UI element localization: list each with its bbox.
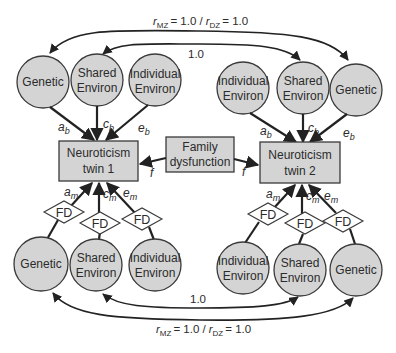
svg-text:Individual: Individual: [218, 74, 269, 88]
svg-text:FD: FD: [134, 213, 151, 227]
svg-text:Genetic: Genetic: [22, 75, 63, 89]
svg-text:Neuroticism: Neuroticism: [268, 148, 331, 162]
svg-text:FD: FD: [335, 215, 352, 229]
svg-text:Genetic: Genetic: [335, 263, 376, 277]
svg-text:Environ: Environ: [77, 81, 118, 95]
top-correlation-arcs: rMZ= 1.0 /rDZ= 1.0 1.0: [50, 15, 348, 60]
twin1-genetic-top: Genetic: [17, 56, 69, 108]
svg-text:twin 1: twin 1: [83, 162, 115, 176]
twin1-top-paths: ab cb eb: [50, 105, 150, 140]
twin2-top-factors: Individual Environ Shared Environ Geneti…: [217, 62, 382, 116]
twin1-moderated-paths: am cm em FD FD FD: [44, 183, 162, 241]
fd-moderator-diamond: FD: [44, 201, 84, 223]
twin2-genetic-top: Genetic: [330, 64, 382, 116]
twin1-genetic-bottom: Genetic: [14, 237, 68, 291]
svg-text:Environ: Environ: [223, 269, 264, 283]
svg-text:Environ: Environ: [135, 82, 176, 96]
twin2-shared-environ-top: Shared Environ: [277, 62, 329, 114]
twin1-shared-environ-top: Shared Environ: [71, 54, 123, 106]
twin2-genetic-bottom: Genetic: [330, 244, 382, 296]
svg-text:dysfunction: dysfunction: [170, 155, 231, 169]
twin1-individual-environ-top: Individual Environ: [129, 54, 181, 106]
twin2-shared-environ-bottom: Shared Environ: [274, 244, 326, 296]
svg-text:Environ: Environ: [280, 271, 321, 285]
path-label-cm-twin2: cm: [306, 189, 320, 205]
svg-text:Individual: Individual: [218, 254, 269, 268]
svg-text:Neuroticism: Neuroticism: [67, 146, 130, 160]
family-dysfunction-box: Family dysfunction: [166, 137, 234, 172]
svg-text:Genetic: Genetic: [335, 83, 376, 97]
svg-text:FD: FD: [92, 217, 109, 231]
path-label-f-left: f: [150, 166, 155, 180]
fd-moderator-diamond: FD: [122, 208, 162, 230]
twin-moderation-path-diagram: rMZ= 1.0 /rDZ= 1.0 1.0 Genetic Shared En…: [0, 0, 396, 353]
twin2-bottom-factors: Individual Environ Shared Environ Geneti…: [217, 242, 382, 296]
svg-text:Individual: Individual: [130, 67, 181, 81]
twin1-bottom-factors: Genetic Shared Environ Individual Enviro…: [14, 237, 181, 291]
svg-text:Environ: Environ: [283, 89, 324, 103]
fd-moderator-diamond: FD: [323, 210, 363, 232]
svg-text:FD: FD: [297, 217, 314, 231]
svg-text:Shared: Shared: [281, 256, 320, 270]
twin2-individual-environ-top: Individual Environ: [217, 62, 269, 114]
twin2-top-paths: ab cb eb: [250, 113, 355, 142]
bottom-outer-correlation-label: rMZ= 1.0 /rDZ= 1.0: [156, 323, 251, 338]
svg-text:Individual: Individual: [130, 251, 181, 265]
top-outer-correlation-label: rMZ= 1.0 /rDZ= 1.0: [153, 15, 248, 30]
svg-text:Shared: Shared: [78, 66, 117, 80]
svg-text:Shared: Shared: [77, 251, 116, 265]
bottom-inner-correlation-label: 1.0: [190, 293, 206, 305]
twin2-individual-environ-bottom: Individual Environ: [217, 242, 269, 294]
twin1-shared-environ-bottom: Shared Environ: [70, 239, 122, 291]
top-inner-correlation-label: 1.0: [188, 48, 204, 60]
path-label-cb-twin2: cb: [308, 121, 319, 137]
path-label-em-twin2: em: [324, 189, 339, 205]
svg-text:Genetic: Genetic: [20, 257, 61, 271]
twin1-top-factors: Genetic Shared Environ Individual Enviro…: [17, 54, 181, 108]
svg-text:Environ: Environ: [223, 89, 264, 103]
svg-text:FD: FD: [56, 206, 73, 220]
path-label-am-twin2: am: [266, 187, 281, 203]
bottom-correlation-arcs: 1.0 rMZ= 1.0 /rDZ= 1.0: [53, 293, 353, 338]
fd-moderator-diamond: FD: [80, 212, 120, 234]
svg-text:Shared: Shared: [284, 74, 323, 88]
path-label-eb-twin2: eb: [343, 126, 355, 142]
twin1-individual-environ-bottom: Individual Environ: [129, 239, 181, 291]
path-label-cb-twin1: cb: [103, 117, 114, 133]
path-label-f-right: f: [242, 165, 247, 179]
path-label-em-twin1: em: [123, 186, 138, 202]
svg-text:twin 2: twin 2: [284, 164, 316, 178]
twin2-moderated-paths: am cm em FD FD FD: [245, 185, 363, 244]
fd-moderator-diamond: FD: [285, 212, 325, 234]
svg-text:Environ: Environ: [135, 266, 176, 280]
path-label-ab-twin1: ab: [58, 120, 70, 136]
neuroticism-twin2-box: Neuroticism twin 2: [260, 142, 340, 183]
path-label-cm-twin1: cm: [103, 187, 117, 203]
fd-moderator-diamond: FD: [248, 203, 288, 225]
svg-text:Environ: Environ: [76, 266, 117, 280]
svg-text:FD: FD: [260, 208, 277, 222]
path-label-am-twin1: am: [64, 185, 79, 201]
neuroticism-twin1-box: Neuroticism twin 1: [59, 141, 138, 181]
svg-text:Family: Family: [182, 140, 217, 154]
path-label-eb-twin1: eb: [138, 121, 150, 137]
